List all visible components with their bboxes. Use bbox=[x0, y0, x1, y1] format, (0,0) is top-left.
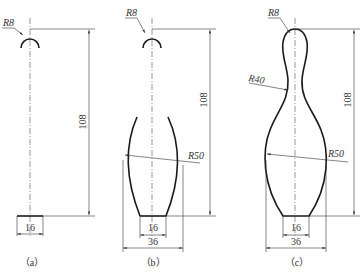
pin-outline-c bbox=[265, 29, 326, 216]
base-width-label-c: 16 bbox=[291, 222, 301, 233]
body-radius-label-c: R50 bbox=[327, 148, 344, 159]
height-label-b: 108 bbox=[198, 93, 209, 108]
r8-leader-c bbox=[280, 18, 290, 33]
base-width-label-a: 16 bbox=[25, 222, 35, 233]
head-radius-label-c: R8 bbox=[267, 7, 279, 18]
figure-c: 108 R50 R40 R8 16 36 （c） bbox=[247, 7, 360, 268]
head-radius-label-b: R8 bbox=[125, 7, 137, 18]
body-right-arc-b bbox=[166, 117, 178, 216]
body-left-arc-b bbox=[128, 117, 140, 216]
head-radius-label-a: R8 bbox=[2, 17, 14, 28]
base-width-label-b: 16 bbox=[148, 222, 158, 233]
caption-c: （c） bbox=[285, 257, 309, 268]
height-label-a: 108 bbox=[77, 115, 88, 130]
body-width-label-c: 36 bbox=[291, 236, 301, 247]
neck-radius-label-c: R40 bbox=[247, 72, 266, 86]
figure-a: 108 16 R8 （a） bbox=[2, 17, 95, 268]
figure-b: 108 R50 16 36 R8 （b） bbox=[123, 7, 216, 268]
r8-leader-a bbox=[14, 28, 23, 35]
drawing-canvas: 108 16 R8 （a） 108 R50 16 36 R8 （b） bbox=[0, 0, 360, 276]
body-width-label-b: 36 bbox=[148, 236, 158, 247]
height-label-c: 108 bbox=[342, 93, 353, 108]
caption-b: （b） bbox=[141, 257, 166, 268]
body-radius-label-b: R50 bbox=[187, 150, 204, 161]
r8-leader-b bbox=[137, 18, 145, 33]
caption-a: （a） bbox=[20, 257, 44, 268]
